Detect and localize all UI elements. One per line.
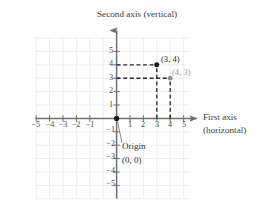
y-tick-label-3: 3 <box>109 73 113 82</box>
point-label-4-3: (4, 3) <box>172 68 191 78</box>
x-axis-title-line2: (horizontal) <box>203 125 246 135</box>
y-tick-label-5: 5 <box>109 46 113 55</box>
x-tick-label--2: −2 <box>72 120 81 129</box>
y-tick-label--5: −5 <box>106 179 115 188</box>
x-tick-label--4: −4 <box>46 120 55 129</box>
y-axis-title: Second axis (vertical) <box>97 9 177 19</box>
coordinate-plane-figure: Second axis (vertical) First axis (horiz… <box>0 0 270 210</box>
coordinate-plane-svg <box>0 0 270 210</box>
x-tick-label-1: 1 <box>128 120 132 129</box>
x-tick-label-5: 5 <box>182 120 186 129</box>
y-tick-label--3: −3 <box>106 152 115 161</box>
y-tick-label--4: −4 <box>106 166 115 175</box>
y-tick-label-4: 4 <box>109 59 113 68</box>
x-tick-label-3: 3 <box>155 120 159 129</box>
y-tick-label-1: 1 <box>109 100 113 109</box>
point-label-3-4: (3, 4) <box>161 55 180 65</box>
y-tick-label--2: −2 <box>106 139 115 148</box>
origin-annotation-coords: (0, 0) <box>122 155 142 165</box>
x-tick-label-2: 2 <box>141 120 145 129</box>
x-tick-label--3: −3 <box>59 120 68 129</box>
x-tick-label--5: −5 <box>32 120 41 129</box>
origin-annotation-title: Origin <box>122 141 146 151</box>
x-tick-label--1: −1 <box>86 120 95 129</box>
x-tick-label-4: 4 <box>168 120 172 129</box>
x-axis-title-line1: First axis <box>203 112 237 122</box>
y-tick-label-2: 2 <box>109 86 113 95</box>
y-tick-label--1: −1 <box>106 125 115 134</box>
point-marker-3-4[interactable] <box>154 62 159 67</box>
point-marker-origin[interactable] <box>114 116 119 121</box>
